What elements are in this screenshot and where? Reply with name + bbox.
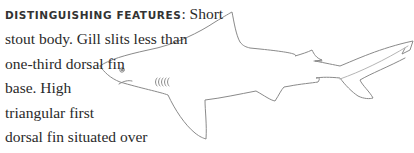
text-line-7: axils of pectoral fins. Pectoral <box>5 149 205 153</box>
field-guide-page: DISTINGUISHING FEATURES: Short stout bod… <box>0 0 414 153</box>
text-line-3: one-third dorsal fin <box>5 52 205 76</box>
distinguishing-features-text: DISTINGUISHING FEATURES: Short stout bod… <box>5 2 205 153</box>
text-line-1: DISTINGUISHING FEATURES: Short <box>5 2 205 27</box>
text-line-2: stout body. Gill slits less than <box>5 27 205 51</box>
text-line-5: triangular first <box>5 101 205 125</box>
text-line-6: dorsal fin situated over <box>5 125 205 149</box>
section-label: DISTINGUISHING FEATURES <box>5 9 181 21</box>
text-line-4: base. High <box>5 76 205 100</box>
